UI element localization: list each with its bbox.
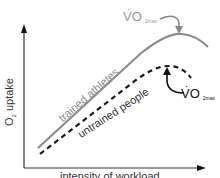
y-axis-label-rest: uptake [3, 78, 15, 114]
vo-text: VO [181, 86, 200, 101]
x-axis-arrow-icon [197, 165, 206, 171]
y-axis-label: O2 uptake [2, 62, 18, 142]
vo-text: VO [123, 9, 142, 24]
bottom-vo2max-arrowhead-icon [163, 67, 171, 75]
bottom-vo2max-label: ·VO2max [181, 86, 215, 101]
top-vo2max-label: ·VO2max [123, 9, 157, 24]
vo-subscript: 2max [145, 18, 157, 24]
y-axis-label-main: O [3, 117, 15, 126]
dot-accent: · [185, 81, 188, 92]
y-axis-arrow-icon [21, 24, 27, 33]
x-axis-label: intensity of workload [60, 170, 160, 178]
y-axis-label-subscript: 2 [11, 114, 17, 117]
vo-subscript: 2max [203, 95, 215, 101]
top-vo2max-arrowhead-icon [175, 26, 183, 34]
vo2max-diagram: O2 uptake intensity of workload trained … [0, 0, 220, 178]
dot-accent: · [127, 4, 130, 15]
